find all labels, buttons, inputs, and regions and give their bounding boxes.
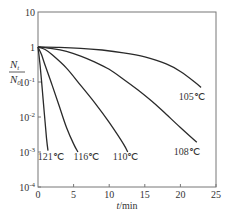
x-tick-label: 5: [71, 189, 76, 200]
x-axis: 0510152025: [36, 184, 222, 200]
series-curves: [38, 47, 201, 152]
curve-label: 105℃: [179, 91, 205, 102]
series-line-121c: [38, 47, 48, 151]
series-line-105c: [38, 47, 201, 87]
y-tick-label: 10-2: [19, 111, 35, 123]
series-line-116c: [38, 47, 78, 152]
y-tick-label: 10-1: [19, 76, 35, 88]
y-tick-label: 10-4: [19, 181, 35, 193]
x-tick-label: 0: [36, 189, 41, 200]
y-tick-label: 10-3: [19, 146, 35, 158]
x-tick-label: 10: [104, 189, 114, 200]
series-line-110c: [38, 47, 128, 152]
curve-label: 116℃: [74, 151, 100, 162]
y-label-numerator: Nt: [9, 58, 20, 72]
y-tick-label: 1: [30, 42, 35, 53]
x-tick-label: 20: [175, 189, 185, 200]
curve-label: 121℃: [38, 151, 64, 162]
curve-label: 110℃: [113, 151, 139, 162]
survival-curve-chart: 10110-110-210-310-4 0510152025 121℃116℃1…: [0, 0, 228, 217]
series-line-108c: [38, 47, 197, 142]
y-label-denominator: N0: [9, 73, 21, 87]
x-tick-label: 15: [140, 189, 150, 200]
x-tick-label: 25: [211, 189, 221, 200]
curve-label: 108℃: [174, 146, 200, 157]
y-tick-label: 10: [25, 7, 35, 18]
x-axis-label: t/min: [116, 200, 137, 211]
